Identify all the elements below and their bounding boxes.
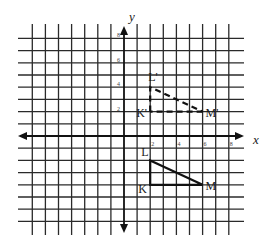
x-axis-label: x [252, 132, 259, 147]
x-tick-label: 6 [204, 141, 207, 147]
y-axis-arrow-up-icon [120, 26, 128, 35]
coordinate-plane-figure: x y 24682468 KLMK'L'M' [0, 0, 275, 245]
y-axis-label: y [127, 9, 135, 24]
x-tick-label: 4 [177, 141, 180, 147]
x-tick-label: 2 [151, 141, 154, 147]
vertex-labels: KLMK'L'M' [136, 70, 218, 196]
vertex-label-m-prime: M' [206, 106, 219, 120]
vertex-label-k: K [138, 182, 147, 196]
y-tick-label: 4 [117, 81, 120, 87]
y-tick-label: 2 [117, 106, 120, 112]
x-tick-label: 8 [230, 141, 233, 147]
y-axis-arrow-down-icon [120, 224, 128, 233]
axes: x y [18, 9, 259, 233]
vertex-label-k-prime: K' [136, 106, 147, 120]
x-axis-arrow-right-icon [235, 132, 244, 140]
y-tick-label: 6 [117, 57, 120, 63]
vertex-label-l-prime: L' [148, 70, 158, 84]
vertex-label-m: M [206, 179, 217, 193]
grid [18, 24, 244, 235]
coordinate-plane: x y 24682468 KLMK'L'M' [0, 0, 275, 245]
vertex-label-l: L [141, 145, 148, 159]
y-tick-label: 8 [117, 32, 120, 38]
x-axis-arrow-left-icon [18, 132, 27, 140]
